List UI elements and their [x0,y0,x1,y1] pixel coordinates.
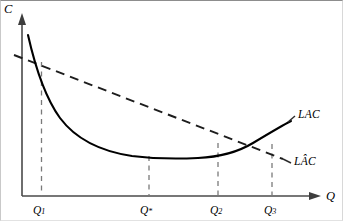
tick-label-q1-subscript: 1 [41,207,45,216]
curve-lac-path [28,35,291,158]
tick-label-qstar-superscript: * [148,207,152,216]
tick-label-qstar: Q* [140,200,152,218]
tick-label-q2-subscript: 2 [218,207,222,216]
axes-group [18,13,321,200]
curve-lachat-group [14,55,283,159]
curve-lac-group [28,35,291,158]
x-axis-arrowhead [309,192,321,200]
tick-label-q2: Q2 [210,200,222,218]
x-axis-label: Q [326,189,335,204]
drop-lines-group [42,62,273,196]
economics-cost-curve-figure: C Q LAC LÂC Q1 Q* Q2 Q3 [0,0,343,221]
curve-label-lac: LAC [298,108,320,120]
leader-line-lachat [283,159,291,163]
tick-label-q3-subscript: 3 [272,207,276,216]
tick-label-q3: Q3 [264,200,276,218]
curve-label-lachat: LÂC [294,155,316,167]
plot-canvas [0,0,343,221]
curve-lachat-line [14,55,283,159]
y-axis-label: C [4,2,12,17]
tick-label-q1: Q1 [33,200,45,218]
y-axis-arrowhead [18,13,26,25]
